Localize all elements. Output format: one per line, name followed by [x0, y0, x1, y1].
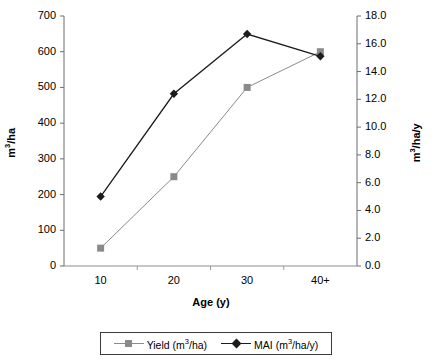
left-tick-label: 100: [16, 223, 56, 235]
left-tick-label: 400: [16, 116, 56, 128]
chart-figure: m3/ha m3/ha/y Age (y) 010020030040050060…: [0, 0, 438, 363]
left-tick-label: 700: [16, 9, 56, 21]
legend-swatch-yield: [114, 338, 144, 349]
x-tick-label: 40+: [295, 274, 345, 286]
legend-label-mai: MAI (m3/ha/y): [254, 337, 318, 351]
right-axis-title-suffix: /ha/y: [410, 123, 422, 148]
right-tick-label: 6.0: [365, 176, 405, 188]
legend-swatch-mai: [221, 338, 251, 349]
data-point-diamond: [96, 192, 104, 200]
right-tick-label: 0.0: [365, 259, 405, 271]
right-tick-label: 18.0: [365, 9, 405, 21]
x-tick-label: 30: [222, 274, 272, 286]
x-tick-label: 20: [149, 274, 199, 286]
right-tick-label: 10.0: [365, 120, 405, 132]
chart-legend: Yield (m3/ha) MAI (m3/ha/y): [100, 332, 332, 355]
right-tick-label: 2.0: [365, 231, 405, 243]
left-tick-label: 500: [16, 80, 56, 92]
right-tick-label: 14.0: [365, 65, 405, 77]
left-axis-title: m3/ha: [3, 113, 17, 173]
right-axis-title-sup: 3: [408, 148, 417, 152]
left-axis-title-suffix: /ha: [5, 128, 17, 144]
right-axis-title-prefix: m: [410, 153, 422, 163]
legend-item-yield[interactable]: Yield (m3/ha): [114, 337, 207, 351]
left-tick-label: 600: [16, 45, 56, 57]
series-line-diamond: [101, 34, 321, 197]
right-tick-label: 16.0: [365, 37, 405, 49]
right-tick-label: 12.0: [365, 92, 405, 104]
x-tick-label: 10: [76, 274, 126, 286]
right-axis-title: m3/ha/y: [408, 113, 422, 173]
data-point-square: [170, 173, 177, 180]
left-axis-ticks: [60, 16, 64, 266]
left-tick-label: 0: [16, 259, 56, 271]
right-tick-label: 4.0: [365, 203, 405, 215]
data-point-square: [244, 84, 251, 91]
data-point-square: [97, 245, 104, 252]
legend-item-mai[interactable]: MAI (m3/ha/y): [221, 337, 318, 351]
right-axis-ticks: [357, 16, 361, 266]
left-axis-title-sup: 3: [3, 144, 12, 148]
right-tick-label: 8.0: [365, 148, 405, 160]
legend-label-yield: Yield (m3/ha): [147, 337, 207, 351]
left-tick-label: 200: [16, 188, 56, 200]
left-tick-label: 300: [16, 152, 56, 164]
series-layer: [96, 30, 324, 252]
x-axis-title: Age (y): [64, 296, 358, 308]
